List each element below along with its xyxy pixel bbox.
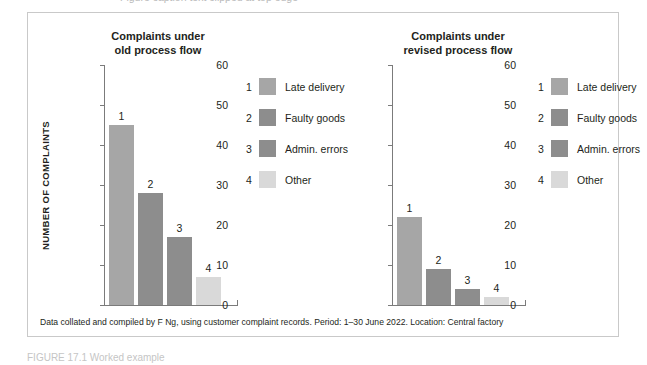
legend-item: 4 Other	[538, 164, 640, 195]
bar-2: 2	[138, 193, 163, 305]
y-axis-tick-label: 50	[504, 99, 516, 111]
bar-4: 4	[196, 277, 221, 305]
bar-number-label: 2	[426, 254, 451, 266]
bar-2: 2	[426, 269, 451, 305]
y-axis-tick-label: 20	[216, 219, 228, 231]
x-axis-end-tick-old	[237, 300, 238, 306]
legend-label: Late delivery	[577, 81, 637, 93]
legend-swatch-other	[551, 171, 568, 188]
bar-number-label: 4	[484, 282, 509, 294]
y-axis-tick	[100, 225, 105, 226]
chart-title-revised: Complaints under revised process flow	[310, 29, 606, 57]
bar-number-label: 4	[196, 262, 221, 274]
bar-4: 4	[484, 297, 509, 305]
y-axis-tick	[100, 265, 105, 266]
bar-number-label: 2	[138, 178, 163, 190]
legend-item: 2 Faulty goods	[538, 102, 640, 133]
y-axis-tick	[100, 145, 105, 146]
bar-1: 1	[397, 217, 422, 305]
legend-swatch-late-delivery	[551, 78, 568, 95]
y-axis-tick	[388, 225, 393, 226]
legend-swatch-faulty-goods	[551, 109, 568, 126]
y-axis-tick-label: 0	[510, 299, 516, 311]
legend-index: 2	[246, 112, 259, 124]
legend-label: Other	[285, 174, 311, 186]
y-axis-tick-label: 20	[504, 219, 516, 231]
bar-number-label: 3	[455, 274, 480, 286]
legend-revised: 1 Late delivery 2 Faulty goods 3 Admin. …	[538, 71, 640, 195]
top-clipped-text: Figure caption text clipped at top edge	[120, 0, 298, 3]
chart-title-revised-line1: Complaints under	[310, 29, 606, 43]
y-axis-tick	[388, 145, 393, 146]
y-axis-title-old-text: NUMBER OF COMPLAINTS	[40, 121, 51, 250]
chart-revised-process-flow: Complaints under revised process flow 01…	[324, 13, 620, 338]
legend-item: 1 Late delivery	[538, 71, 640, 102]
legend-swatch-admin-errors	[259, 140, 276, 157]
chart-title-old: Complaints under old process flow	[10, 29, 306, 57]
legend-label: Faulty goods	[577, 112, 637, 124]
chart-title-revised-line2: revised process flow	[310, 43, 606, 57]
y-axis-tick	[100, 185, 105, 186]
figure-panel: Complaints under old process flow NUMBER…	[27, 12, 619, 337]
legend-index: 4	[246, 174, 259, 186]
chart-old-process-flow: Complaints under old process flow NUMBER…	[28, 13, 324, 338]
y-axis-tick-label: 50	[216, 99, 228, 111]
legend-swatch-other	[259, 171, 276, 188]
legend-index: 2	[538, 112, 551, 124]
source-note: Data collated and compiled by F Ng, usin…	[40, 317, 503, 327]
y-axis-tick	[388, 305, 393, 306]
bar-1: 1	[109, 125, 134, 305]
legend-index: 3	[538, 143, 551, 155]
x-axis-end-tick-revised	[525, 300, 526, 306]
bar-number-label: 3	[167, 222, 192, 234]
legend-swatch-faulty-goods	[259, 109, 276, 126]
legend-index: 1	[538, 81, 551, 93]
legend-index: 3	[246, 143, 259, 155]
bar-number-label: 1	[397, 202, 422, 214]
y-axis-tick	[388, 265, 393, 266]
chart-title-old-line2: old process flow	[10, 43, 306, 57]
y-axis-tick-label: 30	[216, 179, 228, 191]
y-axis-tick	[388, 65, 393, 66]
y-axis-tick	[100, 305, 105, 306]
y-axis-tick-label: 60	[504, 59, 516, 71]
y-axis-tick-label: 40	[216, 139, 228, 151]
y-axis-tick-label: 40	[504, 139, 516, 151]
legend-label: Admin. errors	[577, 143, 640, 155]
y-axis-tick-label: 30	[504, 179, 516, 191]
y-axis-title-old: NUMBER OF COMPLAINTS	[38, 65, 52, 305]
legend-index: 4	[538, 174, 551, 186]
y-axis-tick	[388, 105, 393, 106]
chart-title-old-line1: Complaints under	[10, 29, 306, 43]
y-axis-tick	[100, 65, 105, 66]
legend-item: 3 Admin. errors	[538, 133, 640, 164]
y-axis-tick-label: 10	[504, 259, 516, 271]
bar-3: 3	[167, 237, 192, 305]
plot-area-revised: 01020304050601234	[392, 65, 525, 306]
legend-label: Other	[577, 174, 603, 186]
legend-index: 1	[246, 81, 259, 93]
legend-swatch-late-delivery	[259, 78, 276, 95]
y-axis-tick-label: 60	[216, 59, 228, 71]
plot-area-old: 01020304050601234	[104, 65, 237, 306]
legend-swatch-admin-errors	[551, 140, 568, 157]
figure-caption: FIGURE 17.1 Worked example	[27, 352, 627, 365]
y-axis-tick-label: 0	[222, 299, 228, 311]
top-clipped-text-strip: Figure caption text clipped at top edge	[0, 0, 647, 8]
y-axis-tick	[388, 185, 393, 186]
bar-number-label: 1	[109, 110, 134, 122]
y-axis-tick	[100, 105, 105, 106]
bar-3: 3	[455, 289, 480, 305]
